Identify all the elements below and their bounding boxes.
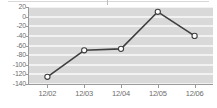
data-point-marker	[192, 33, 197, 38]
y-axis-tick-label: -80	[0, 51, 26, 58]
y-axis-tick-label: -40	[0, 32, 26, 39]
x-axis-tick-label: 12/06	[175, 90, 215, 98]
series-markers	[45, 9, 197, 79]
y-axis-tick-label: -100	[0, 61, 26, 68]
x-axis-tick-mark	[84, 85, 85, 88]
top-tick-mark	[107, 0, 108, 5]
top-divider	[8, 1, 209, 2]
x-axis-tick-mark	[121, 85, 122, 88]
x-axis-tick-label: 12/02	[27, 90, 67, 98]
line-chart: 200-20-40-60-80-100-120-140 12/0212/0312…	[0, 0, 217, 108]
x-axis-tick-label: 12/05	[138, 90, 178, 98]
x-axis-tick-mark	[158, 85, 159, 88]
data-point-marker	[155, 9, 160, 14]
series-line	[47, 12, 194, 77]
y-axis-tick-label: -20	[0, 22, 26, 29]
x-axis-tick-label: 12/03	[64, 90, 104, 98]
x-axis-tick-label: 12/04	[101, 90, 141, 98]
data-point-marker	[118, 46, 123, 51]
y-axis-tick-labels: 200-20-40-60-80-100-120-140	[0, 0, 26, 108]
y-axis-line	[28, 7, 29, 85]
x-axis-tick-mark	[47, 85, 48, 88]
y-axis-tick-label: -60	[0, 42, 26, 49]
x-axis-tick-mark	[195, 85, 196, 88]
data-point-marker	[82, 48, 87, 53]
y-axis-tick-label: 0	[0, 13, 26, 20]
y-axis-tick-label: 20	[0, 3, 26, 10]
data-series-svg	[29, 7, 213, 84]
plot-area	[29, 7, 213, 84]
data-point-marker	[45, 74, 50, 79]
y-axis-tick-label: -140	[0, 80, 26, 87]
y-axis-tick-label: -120	[0, 70, 26, 77]
